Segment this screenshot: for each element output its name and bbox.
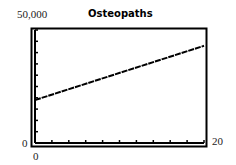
data-line: [35, 46, 204, 100]
plot-frame: [32, 29, 207, 147]
chart-plot: [0, 0, 236, 165]
axis-ticks: [35, 30, 204, 143]
axes: [35, 30, 204, 143]
